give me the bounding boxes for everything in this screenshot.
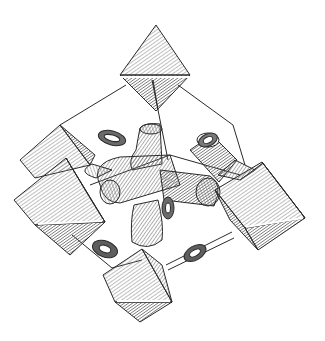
octahedron-top <box>120 25 190 111</box>
ring-upper-left <box>97 128 128 149</box>
figure-canvas <box>0 0 325 341</box>
framework-illustration <box>0 0 325 341</box>
ring-center <box>162 197 174 219</box>
ring-lower-left <box>90 237 120 261</box>
octahedron-bottom <box>103 249 172 322</box>
